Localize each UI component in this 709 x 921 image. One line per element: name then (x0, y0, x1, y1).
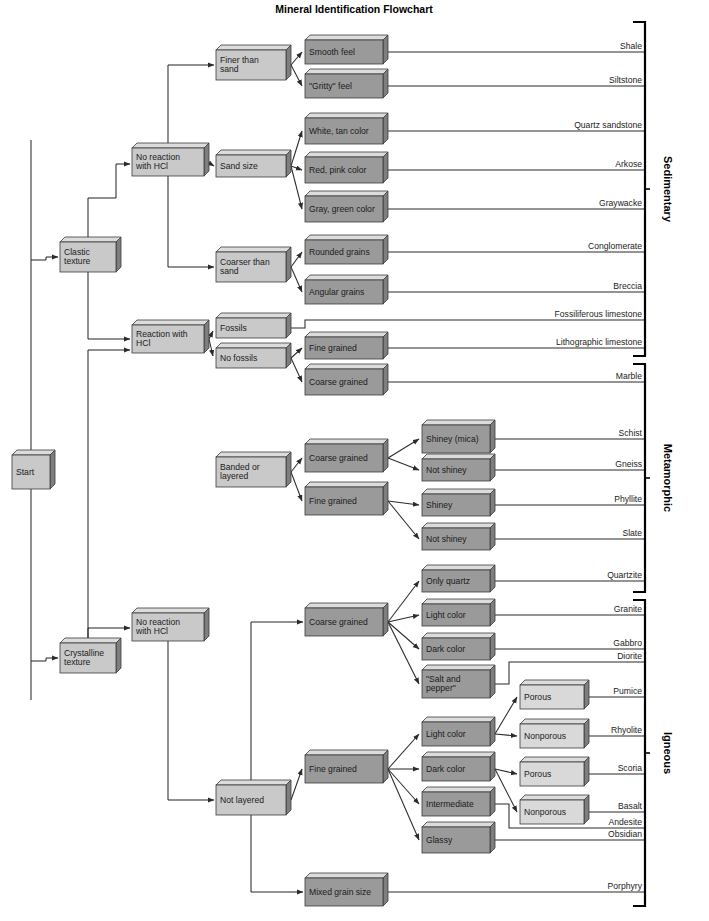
box-coarse_grained_ign[interactable]: Coarse grained (305, 603, 388, 636)
page-title: Mineral Identification Flowchart (275, 3, 433, 15)
box-label: No fossils (220, 353, 257, 363)
box-label: "Gritty" feel (309, 81, 352, 91)
connector (291, 267, 302, 292)
box-nonporous_2[interactable]: Nonporous (520, 795, 589, 824)
box-crystalline_texture[interactable]: Crystallinetexture (60, 638, 121, 673)
box-no_reaction_hcl_2[interactable]: No reactionwith HCl (132, 608, 209, 641)
group-label-metamorphic: Metamorphic (662, 444, 674, 512)
connector (495, 734, 517, 736)
connector (291, 472, 302, 501)
box-gritty_feel[interactable]: "Gritty" feel (305, 69, 388, 98)
box-label: Sand size (220, 161, 258, 171)
result-label-andesite: Andesite (609, 817, 643, 827)
box-reaction_hcl[interactable]: Reaction withHCl (132, 320, 209, 353)
box-label: "Salt and (426, 674, 461, 684)
result-label-basalt: Basalt (618, 801, 642, 811)
box-label: Fine grained (309, 496, 357, 506)
box-label: Light color (426, 729, 466, 739)
box-rounded_grains[interactable]: Rounded grains (305, 235, 388, 264)
bracket-metamorphic: Metamorphic (633, 364, 674, 592)
box-not_layered[interactable]: Not layered (216, 780, 291, 815)
result-label-shale: Shale (620, 41, 642, 51)
connector (495, 769, 517, 774)
box-white_tan_color[interactable]: White, tan color (305, 113, 388, 144)
box-label: Rounded grains (309, 247, 370, 257)
box-gray_green_color[interactable]: Gray, green color (305, 191, 388, 222)
result-label-marble: Marble (616, 371, 642, 381)
box-dark_color_f[interactable]: Dark color (422, 752, 495, 781)
box-nonporous_1[interactable]: Nonporous (520, 719, 589, 748)
connector (388, 622, 419, 684)
box-label: sand (220, 64, 239, 74)
box-light_color_c[interactable]: Light color (422, 599, 495, 626)
box-label: Intermediate (426, 799, 474, 809)
connector (388, 439, 419, 458)
result-label-schist: Schist (619, 428, 643, 438)
result-label-porphyry: Porphyry (608, 881, 643, 891)
box-fine_grained_sed[interactable]: Fine grained (305, 332, 388, 359)
box-label: Not shiney (426, 465, 467, 475)
box-intermediate[interactable]: Intermediate (422, 787, 495, 816)
box-label: HCl (136, 338, 150, 348)
result-label-slate: Slate (622, 528, 642, 538)
result-label-graywacke: Graywacke (599, 198, 642, 208)
box-dark_color_c[interactable]: Dark color (422, 633, 495, 660)
box-label: Gray, green color (309, 204, 375, 214)
box-clastic_texture[interactable]: Clastictexture (60, 237, 121, 272)
box-porous_2[interactable]: Porous (520, 757, 589, 786)
box-label: Banded or (220, 462, 260, 472)
box-light_color_f[interactable]: Light color (422, 717, 495, 746)
box-finer_than_sand[interactable]: Finer thansand (216, 45, 291, 80)
connector (291, 320, 645, 328)
box-glassy[interactable]: Glassy (422, 822, 495, 853)
box-label: Glassy (426, 835, 453, 845)
box-mixed_grain_size[interactable]: Mixed grain size (305, 873, 388, 906)
box-label: Nonporous (524, 807, 566, 817)
box-label: Porous (524, 769, 551, 779)
box-label: with HCl (135, 161, 168, 171)
box-not_shiney_1[interactable]: Not shiney (422, 454, 495, 481)
box-coarse_grained_sed[interactable]: Coarse grained (305, 364, 388, 395)
box-label: Fossils (220, 323, 247, 333)
box-porous_1[interactable]: Porous (520, 680, 589, 709)
box-label: Coarse grained (309, 377, 368, 387)
box-salt_and_pepper[interactable]: "Salt andpepper" (422, 665, 495, 698)
result-label-gabbro: Gabbro (613, 638, 642, 648)
box-not_shiney_2[interactable]: Not shiney (422, 523, 495, 550)
box-no_fossils[interactable]: No fossils (216, 343, 291, 368)
box-label: Dark color (426, 644, 465, 654)
box-shiney_mica[interactable]: Shiney (mica) (422, 420, 495, 453)
connector (291, 166, 302, 209)
box-label: Dark color (426, 764, 465, 774)
connector (495, 769, 517, 812)
box-coarse_grained_meta[interactable]: Coarse grained (305, 439, 388, 472)
box-label: Coarse grained (309, 617, 368, 627)
connector (291, 769, 302, 800)
box-red_pink_color[interactable]: Red, pink color (305, 152, 388, 183)
connector (388, 501, 419, 505)
box-fine_grained_ign[interactable]: Fine grained (305, 750, 388, 783)
connector (209, 331, 213, 339)
box-only_quartz[interactable]: Only quartz (422, 565, 495, 592)
box-start[interactable]: Start (12, 450, 55, 489)
box-smooth_feel[interactable]: Smooth feel (305, 35, 388, 64)
box-label: texture (64, 657, 90, 667)
connector (291, 458, 302, 472)
result-label-quartzite: Quartzite (607, 570, 642, 580)
box-sand_size[interactable]: Sand size (216, 150, 291, 177)
group-label-igneous: Igneous (662, 732, 674, 774)
result-label-lithographic_limestone: Lithographic limestone (556, 337, 642, 347)
box-label: No reaction (136, 617, 180, 627)
box-label: Reaction with (136, 329, 188, 339)
box-no_reaction_hcl_1[interactable]: No reactionwith HCl (132, 143, 209, 176)
box-label: Not layered (220, 795, 264, 805)
box-fine_grained_meta[interactable]: Fine grained (305, 482, 388, 515)
box-angular_grains[interactable]: Angular grains (305, 275, 388, 304)
box-coarser_than_sand[interactable]: Coarser thansand (216, 247, 291, 282)
box-banded_or_layered[interactable]: Banded orlayered (216, 452, 291, 487)
box-fossils[interactable]: Fossils (216, 313, 291, 338)
box-label: Shiney (426, 500, 453, 510)
result-label-quartz_sandstone: Quartz sandstone (574, 120, 642, 130)
box-label: Not shiney (426, 534, 467, 544)
box-shiney[interactable]: Shiney (422, 489, 495, 516)
